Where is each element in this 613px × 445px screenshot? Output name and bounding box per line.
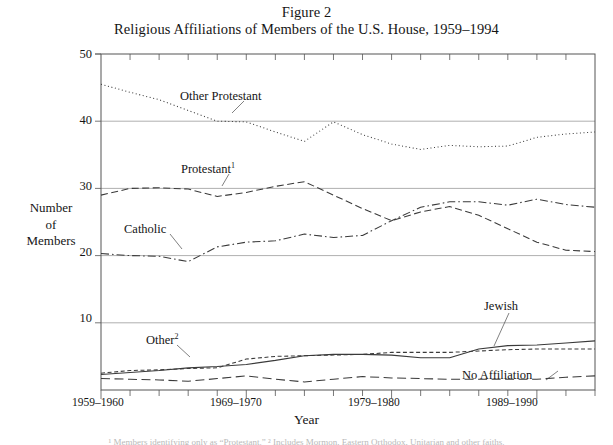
plot-frame-rect: [101, 54, 595, 390]
chart-svg: [0, 0, 613, 445]
axis-ticks: [95, 54, 595, 399]
leader-jewish: [494, 313, 509, 346]
series-line-protestant: [101, 182, 595, 252]
series-line-jewish: [101, 341, 595, 375]
series-line-no-affiliation: [101, 376, 595, 382]
data-series: [101, 84, 595, 382]
leader-other: [177, 345, 190, 357]
plot-area: [0, 0, 613, 445]
leader-protestant: [222, 174, 229, 186]
series-line-catholic: [101, 199, 595, 262]
leader-other-protestant: [232, 101, 244, 113]
footnote-strip: ¹ Members identifying only as “Protestan…: [0, 437, 613, 445]
grid-lines: [101, 121, 595, 323]
plot-frame: [101, 54, 595, 390]
leader-catholic: [170, 234, 182, 249]
label-leader-lines: [170, 101, 558, 380]
series-line-other-protestant: [101, 84, 595, 149]
figure-root: Figure 2 Religious Affiliations of Membe…: [0, 0, 613, 445]
